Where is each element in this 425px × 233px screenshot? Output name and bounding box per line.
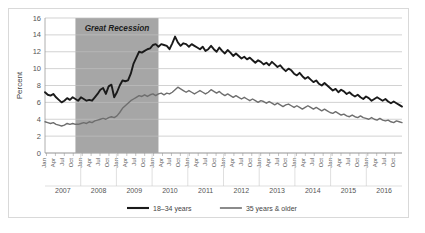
x-axis-month-label: Oct — [104, 158, 110, 168]
x-axis-month-label: Oct — [140, 158, 146, 168]
y-axis-title: Percent — [15, 71, 24, 99]
x-axis-month-label: Oct — [247, 158, 253, 168]
x-axis-year-label: 2011 — [198, 187, 213, 194]
x-axis-month-label: Jul — [95, 158, 101, 166]
x-axis-month-label: Jul — [202, 158, 208, 166]
x-axis-year-label: 2015 — [341, 187, 357, 194]
x-axis-month-label: Jul — [59, 158, 65, 166]
x-axis-month-label: Apr — [300, 158, 306, 167]
x-axis-month-label: Apr — [372, 158, 378, 167]
x-axis-month-label: Jan — [184, 158, 190, 168]
x-axis-month-label: Apr — [265, 158, 271, 167]
x-axis-month-label: Apr — [122, 158, 128, 167]
x-axis-month-label: Oct — [282, 158, 288, 168]
recession-annotation-label: Great Recession — [85, 24, 150, 33]
x-axis-month-label: Jan — [113, 158, 119, 168]
x-axis-year-label: 2014 — [305, 187, 321, 194]
chart-card: 0246810121416PercentGreat RecessionJanAp… — [8, 8, 409, 218]
x-axis-month-label: Oct — [68, 158, 74, 168]
x-axis-month-label: Jan — [327, 158, 333, 168]
x-axis-year-label: 2009 — [126, 187, 142, 194]
y-axis-tick-label: 12 — [33, 47, 41, 56]
x-axis-month-label: Jan — [41, 158, 47, 168]
x-axis-month-label: Oct — [354, 158, 360, 168]
unemployment-rate-line-chart: 0246810121416PercentGreat RecessionJanAp… — [9, 9, 410, 219]
y-axis-tick-label: 4 — [37, 115, 41, 124]
y-axis-tick-label: 10 — [33, 64, 41, 73]
x-axis-month-label: Jan — [220, 158, 226, 168]
y-axis-tick-label: 0 — [37, 149, 41, 158]
x-axis-month-label: Jan — [77, 158, 83, 168]
y-axis-tick-label: 16 — [33, 14, 41, 23]
x-axis-month-label: Apr — [50, 158, 56, 167]
y-axis-tick-label: 2 — [37, 132, 41, 141]
x-axis-month-label: Jul — [345, 158, 351, 166]
x-axis-month-label: Jul — [131, 158, 137, 166]
x-axis-month-label: Oct — [175, 158, 181, 168]
x-axis-month-label: Jan — [149, 158, 155, 168]
y-axis-tick-label: 14 — [33, 30, 41, 39]
x-axis-month-label: Jul — [166, 158, 172, 166]
x-axis-month-label: Apr — [86, 158, 92, 167]
legend-label: 35 years & older — [246, 205, 298, 213]
x-axis-month-label: Jul — [274, 158, 280, 166]
x-axis-month-label: Oct — [211, 158, 217, 168]
x-axis-month-label: Jul — [381, 158, 387, 166]
x-axis-year-label: 2016 — [376, 187, 392, 194]
x-axis-month-label: Apr — [336, 158, 342, 167]
x-axis-month-label: Oct — [318, 158, 324, 168]
x-axis-year-label: 2008 — [91, 187, 107, 194]
x-axis-month-label: Jul — [238, 158, 244, 166]
y-axis-tick-label: 6 — [37, 98, 41, 107]
x-axis-month-label: Apr — [229, 158, 235, 167]
x-axis-month-label: Oct — [390, 158, 396, 168]
x-axis-year-label: 2007 — [55, 187, 71, 194]
x-axis-month-label: Jan — [363, 158, 369, 168]
y-axis-tick-label: 8 — [37, 81, 41, 90]
legend-item-35-years-and-older: 35 years & older — [220, 205, 298, 213]
x-axis-month-label: Jan — [291, 158, 297, 168]
legend-label: 18–34 years — [153, 205, 192, 213]
x-axis-month-label: Apr — [158, 158, 164, 167]
x-axis-year-label: 2013 — [269, 187, 285, 194]
legend-item-18-34-years: 18–34 years — [127, 205, 192, 213]
x-axis-year-label: 2012 — [234, 187, 250, 194]
x-axis-month-label: Apr — [193, 158, 199, 167]
x-axis-month-label: Jan — [256, 158, 262, 168]
x-axis-year-label: 2010 — [162, 187, 178, 194]
chart-plot-area: 0246810121416PercentGreat RecessionJanAp… — [9, 9, 410, 219]
x-axis-month-label: Jul — [309, 158, 315, 166]
